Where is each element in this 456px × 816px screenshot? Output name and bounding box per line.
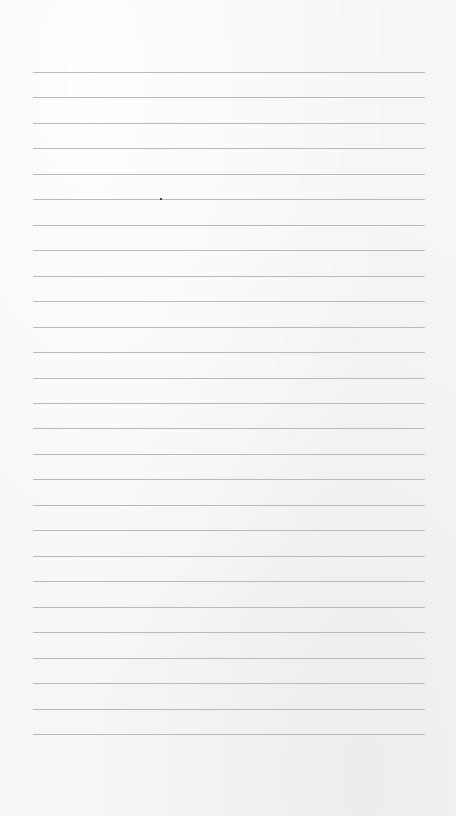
- lined-paper-sheet: [0, 0, 456, 816]
- ruled-line: [33, 174, 425, 175]
- ruled-line: [33, 225, 425, 226]
- ruled-line: [33, 301, 425, 302]
- ruled-line: [33, 454, 425, 455]
- ruled-line: [33, 658, 425, 659]
- ruled-line: [33, 123, 425, 124]
- ink-speck: [160, 198, 162, 200]
- ruled-line: [33, 683, 425, 684]
- ruled-line: [33, 250, 425, 251]
- ruled-line: [33, 276, 425, 277]
- ruled-line: [33, 327, 425, 328]
- ruled-line: [33, 72, 425, 73]
- ruled-line: [33, 709, 425, 710]
- ruled-line: [33, 428, 425, 429]
- ruled-line: [33, 479, 425, 480]
- ruled-line: [33, 352, 425, 353]
- ruled-line: [33, 505, 425, 506]
- ruled-line: [33, 530, 425, 531]
- ruled-line: [33, 378, 425, 379]
- ruled-line: [33, 556, 425, 557]
- ruled-line: [33, 403, 425, 404]
- ruled-line: [33, 148, 425, 149]
- ruled-line: [33, 97, 425, 98]
- ruled-line: [33, 581, 425, 582]
- ruled-line: [33, 734, 425, 735]
- ruled-line: [33, 607, 425, 608]
- ruled-line: [33, 199, 425, 200]
- ruled-line: [33, 632, 425, 633]
